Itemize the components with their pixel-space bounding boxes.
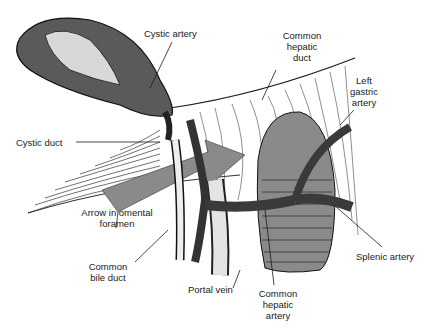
- label-cystic-duct: Cystic duct: [16, 137, 62, 148]
- anatomy-illustration: [0, 0, 436, 330]
- label-line: gastric: [344, 86, 384, 97]
- label-cystic-artery: Cystic artery: [144, 28, 197, 39]
- label-line: duct: [274, 52, 330, 63]
- label-arrow-omental-foramen: Arrow in omental foramen: [72, 207, 162, 229]
- hepatic-artery-shape: [190, 120, 205, 262]
- label-line: artery: [250, 310, 306, 321]
- label-line: Common: [250, 288, 306, 299]
- label-line: bile duct: [82, 272, 134, 283]
- label-splenic-artery: Splenic artery: [356, 251, 414, 262]
- label-left-gastric-artery: Left gastric artery: [344, 75, 384, 108]
- label-line: artery: [344, 97, 384, 108]
- label-line: Arrow in omental: [72, 207, 162, 218]
- label-line: foramen: [72, 218, 162, 229]
- label-common-hepatic-artery: Common hepatic artery: [250, 288, 306, 321]
- label-line: Common: [82, 261, 134, 272]
- label-common-bile-duct: Common bile duct: [82, 261, 134, 283]
- label-line: Left: [344, 75, 384, 86]
- label-portal-vein: Portal vein: [188, 284, 233, 295]
- peritoneal-edge: [170, 58, 355, 108]
- label-common-hepatic-duct: Common hepatic duct: [274, 30, 330, 63]
- label-line: Common: [274, 30, 330, 41]
- label-line: hepatic: [274, 41, 330, 52]
- label-line: hepatic: [250, 299, 306, 310]
